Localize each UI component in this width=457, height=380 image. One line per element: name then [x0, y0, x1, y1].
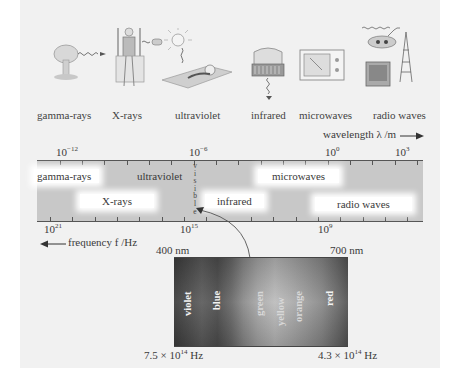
color-label-red: red	[324, 291, 334, 306]
wavelength-tick-1e-6: 10−6	[189, 145, 207, 158]
visible-frequency-right: 4.3 × 1014 Hz	[318, 348, 377, 361]
band-radio-waves: radio waves	[315, 197, 412, 211]
heater-icon	[250, 44, 290, 100]
illustration-label-radio: radio waves	[373, 109, 426, 121]
illustration-label-gamma: gamma-rays	[37, 109, 91, 121]
wavelength-axis-title: wavelength λ /m	[323, 128, 396, 140]
band-ultraviolet: ultraviolet	[129, 169, 190, 183]
radio-tv-tower-icon	[360, 22, 420, 92]
visible-wavelength-400nm: 400 nm	[156, 244, 189, 256]
color-label-blue: blue	[211, 291, 217, 310]
microwave-oven-icon	[298, 48, 346, 82]
visible-frequency-left: 7.5 × 1014 Hz	[144, 348, 203, 361]
wavelength-tick-1e-12: 10−12	[56, 145, 78, 158]
sunbather-icon	[158, 28, 234, 90]
band-xrays: X-rays	[80, 194, 154, 208]
mushroom-cloud-icon	[50, 40, 110, 82]
frequency-axis-title: frequency f /Hz	[68, 236, 137, 248]
band-microwaves: microwaves	[258, 169, 339, 183]
band-gamma-rays: gamma-rays	[34, 169, 99, 183]
illustration-label-xrays: X-rays	[112, 109, 142, 121]
frequency-tick-1e9: 109	[318, 222, 333, 235]
illustration-label-ultraviolet: ultraviolet	[175, 109, 220, 121]
illustration-label-microwaves: microwaves	[299, 109, 352, 121]
arrow-right-icon	[400, 131, 424, 141]
visible-spectrum-band: violet blue green yellow orange red	[174, 257, 348, 347]
wavelength-tick-1e0: 100	[325, 145, 340, 158]
arrow-left-icon	[40, 239, 66, 249]
frequency-tick-1e21: 1021	[44, 222, 62, 235]
illustration-label-infrared: infrared	[251, 109, 286, 121]
wavelength-tick-1e3: 103	[395, 145, 410, 158]
visible-wavelength-700nm: 700 nm	[330, 244, 363, 256]
